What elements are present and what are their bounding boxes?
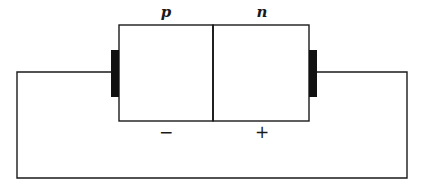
n-label: n (257, 3, 268, 21)
right-electrode (309, 50, 317, 97)
left-electrode (111, 50, 119, 97)
p-region (119, 25, 213, 121)
plus-sign: + (255, 122, 269, 142)
minus-sign: − (159, 122, 173, 142)
p-label: p (161, 3, 172, 21)
circuit-wire (17, 72, 407, 178)
pn-junction-diagram: p n − + (0, 0, 428, 186)
n-region (213, 25, 309, 121)
